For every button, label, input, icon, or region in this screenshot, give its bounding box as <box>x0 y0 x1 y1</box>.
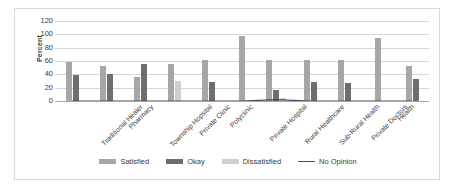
chart-plot-area: Percent 120100806040200 Traditional Heal… <box>15 9 441 181</box>
bar-group <box>191 21 225 101</box>
bar-group <box>89 21 123 101</box>
legend-swatch-satisfied-icon <box>99 159 116 164</box>
plot-canvas <box>55 21 429 101</box>
bar-group <box>259 21 293 101</box>
y-tick-20: 20 <box>45 84 53 92</box>
bar-satisfied <box>338 60 344 101</box>
bar-satisfied <box>304 60 310 101</box>
chart-frame: Percent 120100806040200 Traditional Heal… <box>14 8 440 180</box>
legend-swatch-okay-icon <box>166 159 183 164</box>
bar-satisfied <box>266 60 272 101</box>
chart-legend: SatisfiedOkayDissatisfiedNo Opinion <box>15 157 441 166</box>
bar-group <box>395 21 429 101</box>
legend-label: Satisfied <box>120 157 149 166</box>
bar-satisfied <box>134 77 140 101</box>
legend-swatch-dissatisfied-icon <box>222 159 239 164</box>
x-label-polyclinic: Polyclinic <box>228 103 254 129</box>
bar-okay <box>107 74 113 101</box>
bar-dissatisfied <box>175 81 181 101</box>
bar-groups <box>55 21 429 101</box>
bar-group <box>361 21 395 101</box>
y-tick-0: 0 <box>49 97 53 105</box>
bar-okay <box>141 64 147 101</box>
bar-group <box>327 21 361 101</box>
bar-group <box>225 21 259 101</box>
legend-item-dissatisfied[interactable]: Dissatisfied <box>222 157 281 166</box>
x-label-health: Health <box>396 103 415 122</box>
bar-satisfied <box>202 60 208 101</box>
y-tick-40: 40 <box>45 71 53 79</box>
bar-satisfied <box>406 66 412 101</box>
bar-group <box>123 21 157 101</box>
bar-okay <box>73 75 79 101</box>
y-tick-80: 80 <box>45 44 53 52</box>
y-tick-120: 120 <box>40 17 53 25</box>
bar-satisfied <box>375 38 381 101</box>
bar-satisfied <box>168 64 174 101</box>
bar-satisfied <box>239 36 245 101</box>
legend-swatch-line-icon <box>298 161 315 162</box>
x-axis-category-labels: Traditional HealerPharmacyTownship Hopsi… <box>55 101 429 159</box>
legend-label: No Opinion <box>319 157 357 166</box>
bar-satisfied <box>100 66 106 101</box>
y-tick-60: 60 <box>45 57 53 65</box>
legend-item-line[interactable]: No Opinion <box>298 157 357 166</box>
bar-okay <box>345 83 351 101</box>
bar-satisfied <box>66 62 72 101</box>
bar-okay <box>209 82 215 101</box>
y-axis-tick-labels: 120100806040200 <box>29 21 53 101</box>
bar-group <box>293 21 327 101</box>
bar-okay <box>273 90 279 101</box>
legend-label: Okay <box>187 157 205 166</box>
y-tick-100: 100 <box>40 31 53 39</box>
bar-group <box>157 21 191 101</box>
legend-label: Dissatisfied <box>243 157 281 166</box>
bar-okay <box>413 79 419 101</box>
bar-group <box>55 21 89 101</box>
legend-item-okay[interactable]: Okay <box>166 157 205 166</box>
legend-item-satisfied[interactable]: Satisfied <box>99 157 149 166</box>
bar-okay <box>311 82 317 101</box>
x-label-private-hospital: Private Hospital <box>268 103 308 143</box>
